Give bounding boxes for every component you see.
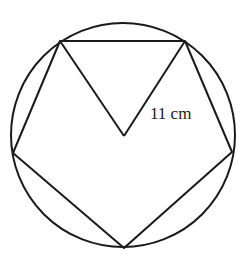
radius-line-left (60, 41, 124, 136)
radius-label: 11 cm (150, 104, 191, 123)
pentagon-diagram: 11 cm (0, 0, 243, 266)
